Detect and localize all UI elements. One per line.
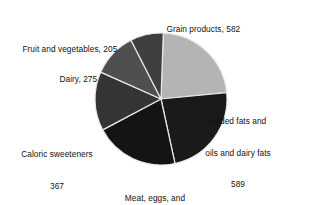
pie-label-caloric-sweeteners-line1: Caloric sweeteners (21, 149, 92, 160)
pie-label-grain-products-text: Grain products, 582 (166, 24, 240, 34)
pie-label-dairy: Dairy, 275 (50, 63, 97, 95)
pie-label-added-fats-line3: 589 (205, 179, 271, 190)
pie-label-dairy-text: Dairy, 275 (59, 74, 97, 84)
pie-label-meat-eggs-nuts: Meat, eggs, and nuts, 525 (125, 172, 185, 205)
pie-label-added-fats: Added fats and oils and dairy fats 589 (205, 95, 271, 205)
pie-chart-figure: Grain products, 582 Fruit and vegetables… (0, 0, 320, 205)
pie-label-added-fats-line2: oils and dairy fats (205, 148, 271, 159)
pie-label-caloric-sweeteners: Caloric sweeteners 367 (21, 128, 92, 205)
pie-label-added-fats-line1: Added fats and (205, 116, 271, 127)
pie-label-meat-eggs-nuts-line1: Meat, eggs, and (125, 193, 185, 204)
pie-label-caloric-sweeteners-line2: 367 (21, 181, 92, 192)
pie-label-grain-products: Grain products, 582 (157, 13, 240, 45)
pie-label-fruit-and-vegetables-text: Fruit and vegetables, 205 (22, 44, 117, 54)
pie-label-fruit-and-vegetables: Fruit and vegetables, 205 (13, 33, 117, 65)
